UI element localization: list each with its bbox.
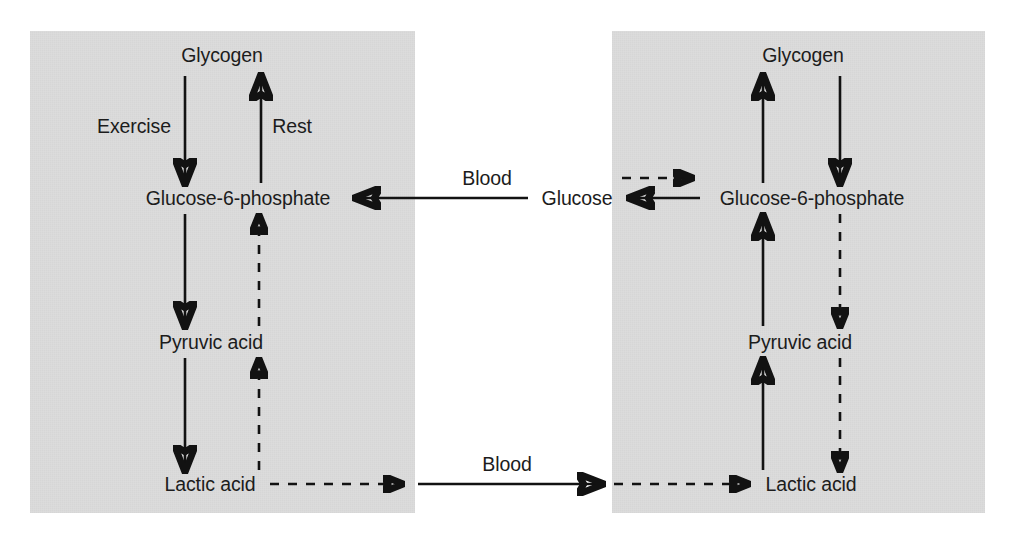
edge-label-exercise: Exercise (97, 115, 171, 138)
node-muscle-lactic-acid: Lactic acid (164, 473, 255, 496)
node-liver-glycogen: Glycogen (762, 44, 844, 67)
edge-label-rest: Rest (272, 115, 312, 138)
node-liver-glucose-6-phosphate: Glucose-6-phosphate (720, 187, 905, 210)
node-liver-pyruvic-acid: Pyruvic acid (748, 331, 852, 354)
node-liver-lactic-acid: Lactic acid (765, 473, 856, 496)
edge-label-blood-top: Blood (462, 167, 511, 190)
edge-label-blood-bottom: Blood (482, 453, 531, 476)
node-muscle-glucose-6-phosphate: Glucose-6-phosphate (146, 187, 331, 210)
diagram-canvas: Glycogen Glucose-6-phosphate Pyruvic aci… (0, 0, 1017, 539)
node-muscle-glycogen: Glycogen (181, 44, 263, 67)
node-blood-glucose: Glucose (542, 187, 613, 210)
node-muscle-pyruvic-acid: Pyruvic acid (159, 331, 263, 354)
